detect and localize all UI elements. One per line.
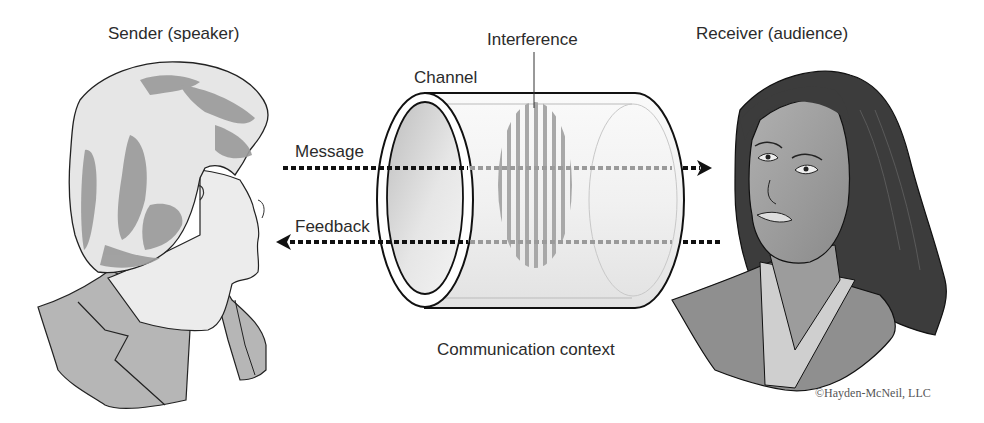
sender-figure (38, 62, 268, 409)
communication-context-label: Communication context (437, 340, 615, 360)
channel-opening (387, 102, 463, 294)
receiver-face (749, 100, 849, 263)
interference-label: Interference (487, 30, 578, 50)
receiver-label: Receiver (audience) (696, 24, 848, 44)
feedback-arrowhead-icon (276, 234, 291, 250)
channel-label: Channel (414, 68, 477, 88)
receiver-figure (672, 71, 946, 390)
channel-cylinder (377, 52, 684, 308)
sender-label: Sender (speaker) (108, 24, 239, 44)
message-label: Message (295, 142, 364, 162)
feedback-label: Feedback (295, 217, 370, 237)
copyright-notice: ©Hayden-McNeil, LLC (815, 386, 931, 401)
